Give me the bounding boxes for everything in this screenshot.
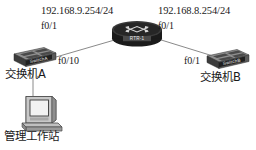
right-router-port-label: f0/1 — [158, 21, 174, 31]
workstation-caption: 管理工作站 — [4, 131, 59, 143]
switch-b-port-label: f0/1 — [184, 56, 200, 66]
switch-a-port-label: f0/10 — [58, 56, 79, 66]
left-subnet-label: 192.168.9.254/24 — [41, 6, 113, 17]
left-router-port-label: f0/1 — [41, 21, 57, 31]
workstation-icon — [0, 0, 256, 150]
network-diagram: RTR-1 SwitchA 交换机A — [0, 0, 256, 150]
right-subnet-label: 192.168.8.254/24 — [158, 6, 230, 17]
